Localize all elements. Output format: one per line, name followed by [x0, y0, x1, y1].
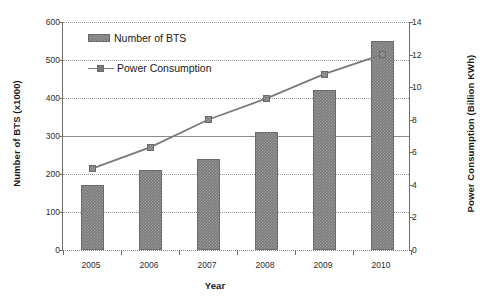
tickmark-bottom-4 — [295, 250, 296, 255]
line-marker-2006 — [147, 144, 154, 151]
line-marker-2008 — [263, 95, 270, 102]
x-tick-2005: 2005 — [82, 260, 101, 270]
bar-swatch-icon — [88, 34, 110, 42]
tickmark-bottom-6 — [411, 250, 412, 255]
chart-container: Number of BTS (x1000) Power Consumption … — [0, 0, 480, 302]
legend-label-power-consumption: Power Consumption — [117, 62, 212, 74]
line-marker-swatch-icon — [88, 64, 114, 73]
line-marker-2009 — [321, 71, 328, 78]
line-marker-2007 — [205, 116, 212, 123]
x-tick-2007: 2007 — [198, 260, 217, 270]
tickmark-bottom-0 — [63, 250, 64, 255]
legend-item-number-of-bts: Number of BTS — [88, 32, 212, 44]
tickmark-bottom-1 — [121, 250, 122, 255]
x-tick-2009: 2009 — [314, 260, 333, 270]
tickmark-bottom-2 — [179, 250, 180, 255]
legend: Number of BTS Power Consumption — [88, 32, 212, 92]
tickmark-bottom-5 — [353, 250, 354, 255]
line-marker-2010 — [379, 51, 386, 58]
x-tick-2006: 2006 — [140, 260, 159, 270]
x-tick-2008: 2008 — [256, 260, 275, 270]
axis-baseline — [62, 250, 410, 251]
x-tick-2010: 2010 — [372, 260, 391, 270]
legend-label-number-of-bts: Number of BTS — [114, 32, 186, 44]
legend-item-power-consumption: Power Consumption — [88, 62, 212, 74]
tickmark-bottom-3 — [237, 250, 238, 255]
line-marker-2005 — [89, 165, 96, 172]
